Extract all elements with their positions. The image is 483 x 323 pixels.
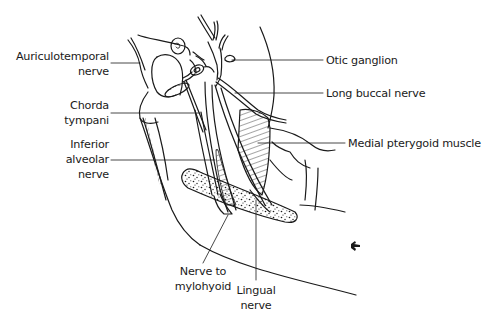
label-long-buccal-nerve: Long buccal nerve: [326, 86, 425, 101]
label-auriculotemporal-nerve: Auriculotemporal nerve: [16, 49, 109, 79]
label-medial-pterygoid-muscle: Medial pterygoid muscle: [348, 136, 481, 151]
label-inferior-alveolar-nerve: Inferior alveolar nerve: [66, 137, 109, 182]
label-otic-ganglion: Otic ganglion: [326, 53, 398, 68]
label-chorda-tympani: Chorda tympani: [64, 98, 109, 128]
label-nerve-to-mylohyoid: Nerve to mylohyoid: [168, 264, 238, 294]
leader-lines: [111, 60, 345, 280]
label-lingual-nerve: Lingual nerve: [231, 283, 281, 313]
anatomy-diagram: Auriculotemporal nerve Chorda tympani In…: [0, 0, 483, 323]
arrow-glyph: [351, 241, 360, 251]
